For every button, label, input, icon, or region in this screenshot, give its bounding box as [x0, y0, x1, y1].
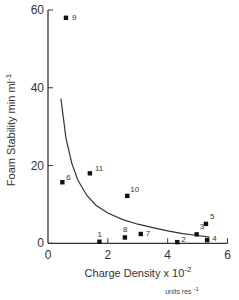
y-axis-title: Foam Stability min ml-1	[4, 73, 17, 186]
data-point-marker	[97, 240, 101, 244]
foam-stability-chart: 02040600246 1234567891011 Charge Density…	[0, 0, 239, 300]
data-point-label: 1	[97, 230, 102, 239]
x-tick-label: 4	[164, 248, 171, 262]
data-point-marker	[205, 238, 209, 242]
y-tick-label: 0	[37, 236, 44, 250]
x-tick-label: 2	[104, 248, 111, 262]
data-point-marker	[64, 16, 68, 20]
data-point-marker	[60, 180, 64, 184]
data-point-label: 5	[210, 212, 215, 221]
data-point-marker	[125, 194, 129, 198]
x-tick-label: 6	[224, 248, 231, 262]
data-point-label: 7	[146, 229, 151, 238]
fitted-curve	[61, 99, 210, 237]
data-points: 1234567891011	[60, 13, 217, 245]
data-point-label: 2	[181, 235, 186, 244]
data-point-marker	[204, 222, 208, 226]
data-point-marker	[139, 232, 143, 236]
data-point-marker	[123, 235, 127, 239]
data-point-marker	[194, 232, 198, 236]
data-point-label: 6	[66, 173, 71, 182]
data-point-label: 9	[72, 13, 77, 22]
data-point-label: 11	[95, 164, 104, 173]
data-point-marker	[175, 240, 179, 244]
x-tick-label: 0	[45, 248, 52, 262]
data-point-label: 4	[212, 234, 217, 243]
x-axis-units: units res -1	[165, 286, 199, 295]
data-point-label: 10	[130, 185, 139, 194]
data-point-label: 8	[123, 225, 128, 234]
x-axis-title: Charge Density x 10-2	[85, 265, 192, 279]
y-tick-label: 40	[31, 81, 45, 95]
y-tick-label: 20	[31, 159, 45, 173]
data-point-marker	[88, 171, 92, 175]
y-tick-label: 60	[31, 3, 45, 17]
fitted-curve-path	[61, 99, 210, 237]
